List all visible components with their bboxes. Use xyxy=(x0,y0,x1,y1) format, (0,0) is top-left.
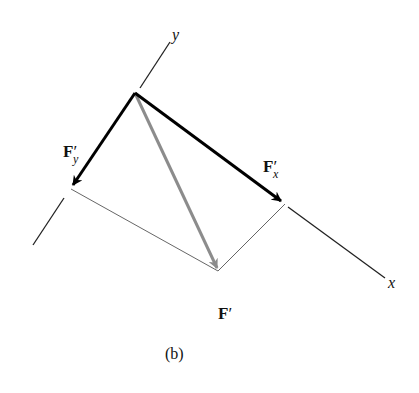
fy-label: F′y xyxy=(63,142,79,166)
component-vector-fy xyxy=(73,93,135,185)
construction-line-fx-to-f xyxy=(218,204,285,271)
force-components-diagram: y x F′y F′x F′ (b) xyxy=(0,0,419,393)
y-axis-lower xyxy=(33,198,64,245)
construction-line-fy-to-f xyxy=(71,189,218,271)
x-axis-label: x xyxy=(387,274,395,291)
resultant-vector-f xyxy=(135,93,217,268)
component-vector-fx xyxy=(135,93,281,201)
figure-caption: (b) xyxy=(165,345,184,363)
y-axis-upper xyxy=(140,42,170,88)
fx-label: F′x xyxy=(263,157,279,181)
x-axis xyxy=(288,207,385,278)
f-resultant-label: F′ xyxy=(218,304,232,323)
y-axis-label: y xyxy=(170,26,180,44)
